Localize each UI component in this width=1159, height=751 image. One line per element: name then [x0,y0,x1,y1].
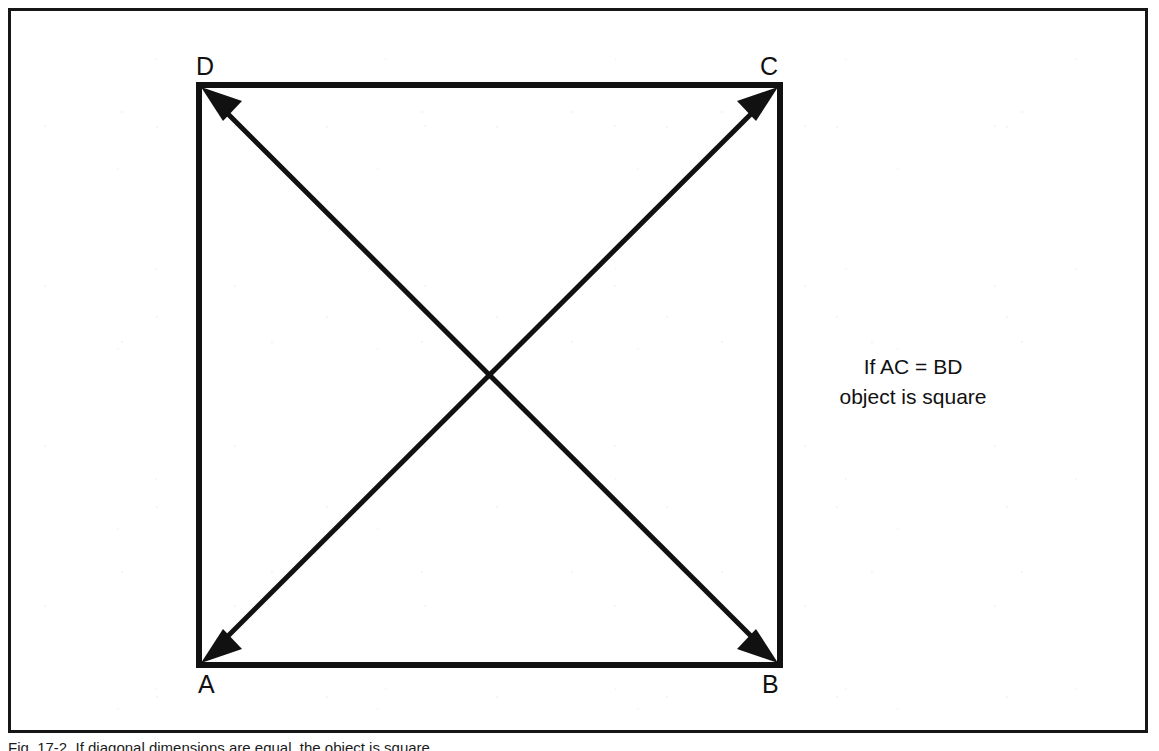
vertex-label-d: D [196,54,214,79]
figure-page: D C A B If AC = BD object is square Fig.… [0,0,1159,751]
annotation-line-2: object is square [798,382,1028,412]
vertex-label-c: C [760,54,778,79]
figure-caption: Fig. 17-2. If diagonal dimensions are eq… [8,739,1008,751]
annotation-note: If AC = BD object is square [798,352,1028,412]
vertex-label-a: A [198,672,215,697]
annotation-line-1: If AC = BD [798,352,1028,382]
vertex-label-b: B [762,672,779,697]
